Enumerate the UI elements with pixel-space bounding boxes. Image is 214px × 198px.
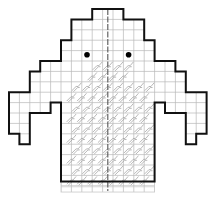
stitch-icon [72, 145, 81, 154]
stitch-icon [93, 145, 102, 154]
stitch-icon [114, 62, 123, 71]
stitch-icon [72, 104, 81, 113]
stitch-icon [93, 83, 102, 92]
stitch-icon [145, 83, 154, 92]
stitch-icon [72, 83, 81, 92]
stitch-icon [93, 104, 102, 113]
stitch-icon [82, 145, 91, 154]
stitch-icon [93, 124, 102, 133]
stitch-icon [82, 124, 91, 133]
knitting-chart [0, 0, 214, 198]
stitch-icon [72, 166, 81, 175]
stitch-icon [72, 124, 81, 133]
stitch-icon [93, 166, 102, 175]
left-eye-icon [84, 52, 90, 58]
stitch-icon [145, 124, 154, 133]
stitch-icon [134, 83, 143, 92]
stitch-icon [145, 104, 154, 113]
stitch-icon [93, 62, 102, 71]
stitch-icon [145, 166, 154, 175]
stitch-icon [82, 104, 91, 113]
stitch-icon [82, 83, 91, 92]
stitch-icon [124, 145, 133, 154]
stitch-icon [134, 124, 143, 133]
stitch-icon [134, 104, 143, 113]
stitch-icon [145, 145, 154, 154]
stitch-icon [114, 104, 123, 113]
right-eye-icon [126, 52, 132, 58]
stitch-icon [82, 166, 91, 175]
stitch-icon [114, 145, 123, 154]
stitch-icon [114, 124, 123, 133]
stitch-icon [114, 83, 123, 92]
stitch-icon [114, 166, 123, 175]
stitch-icon [124, 104, 133, 113]
stitch-icon [134, 166, 143, 175]
stitch-icon [124, 83, 133, 92]
stitch-icon [124, 62, 133, 71]
stitch-icon [134, 145, 143, 154]
stitch-icon [124, 166, 133, 175]
stitch-icon [124, 124, 133, 133]
